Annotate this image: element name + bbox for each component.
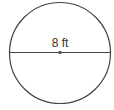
diameter-label: 8 ft: [52, 36, 69, 50]
circle-diagram: 8 ft: [0, 0, 114, 110]
center-point: [58, 51, 62, 55]
